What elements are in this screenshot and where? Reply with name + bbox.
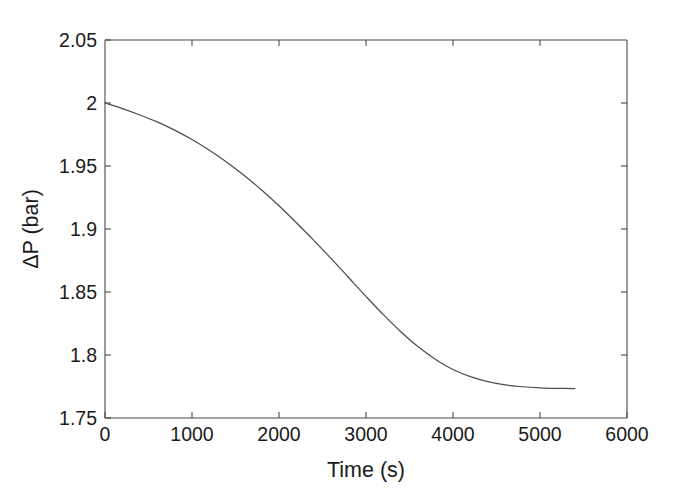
x-tick-label-5000: 5000 — [518, 423, 562, 445]
y-tick-label-1-85: 1.85 — [59, 281, 97, 303]
x-tick-label-4000: 4000 — [431, 423, 475, 445]
y-tick-label-1-95: 1.95 — [59, 155, 97, 177]
x-tick-label-2000: 2000 — [257, 423, 301, 445]
y-tick-label-1-9: 1.9 — [70, 218, 97, 240]
y-tick-label-1-8: 1.8 — [70, 344, 97, 366]
x-axis-title: Time (s) — [327, 458, 405, 482]
y-tick-label-2: 2 — [86, 92, 97, 114]
y-tick-label-2-05: 2.05 — [59, 29, 97, 51]
x-tick-label-6000: 6000 — [605, 423, 649, 445]
line-chart: 1.75 1.8 1.85 1.9 1.95 2 2.05 0 1000 200… — [0, 0, 676, 501]
x-tick-label-0: 0 — [100, 423, 111, 445]
figure-canvas: 1.75 1.8 1.85 1.9 1.95 2 2.05 0 1000 200… — [0, 0, 676, 501]
x-tick-label-3000: 3000 — [344, 423, 388, 445]
x-tick-label-1000: 1000 — [170, 423, 214, 445]
y-tick-label-1-75: 1.75 — [59, 407, 97, 429]
y-axis-title: ΔP (bar) — [19, 189, 43, 269]
